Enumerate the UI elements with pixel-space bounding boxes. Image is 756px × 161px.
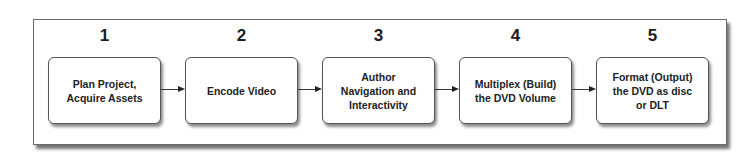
step-label: Multiplex (Build) the DVD Volume xyxy=(471,77,561,105)
step-label: Format (Output) the DVD as disc or DLT xyxy=(609,70,697,112)
step-number-5: 5 xyxy=(596,27,709,45)
arrow-line xyxy=(572,89,590,90)
step-label: Plan Project, Acquire Assets xyxy=(62,77,146,105)
step-box-multiplex: Multiplex (Build) the DVD Volume xyxy=(459,57,572,124)
step-box-format-output: Format (Output) the DVD as disc or DLT xyxy=(596,57,709,124)
arrow-head-icon xyxy=(315,86,322,92)
arrow-head-icon xyxy=(178,86,185,92)
arrow-head-icon xyxy=(589,86,596,92)
arrow-line xyxy=(298,89,316,90)
step-number-4: 4 xyxy=(459,27,572,45)
step-box-author-navigation: Author Navigation and Interactivity xyxy=(322,57,435,124)
step-number-3: 3 xyxy=(322,27,435,45)
arrow-line xyxy=(161,89,179,90)
step-number-2: 2 xyxy=(185,27,298,45)
arrow-4-to-5 xyxy=(572,89,596,91)
step-number-1: 1 xyxy=(48,27,161,45)
arrow-2-to-3 xyxy=(298,89,322,91)
step-label: Encode Video xyxy=(203,84,280,98)
arrow-head-icon xyxy=(452,86,459,92)
arrow-line xyxy=(435,89,453,90)
step-box-plan-project: Plan Project, Acquire Assets xyxy=(48,57,161,124)
step-label: Author Navigation and Interactivity xyxy=(337,70,420,112)
arrow-1-to-2 xyxy=(161,89,185,91)
arrow-3-to-4 xyxy=(435,89,459,91)
step-box-encode-video: Encode Video xyxy=(185,57,298,124)
